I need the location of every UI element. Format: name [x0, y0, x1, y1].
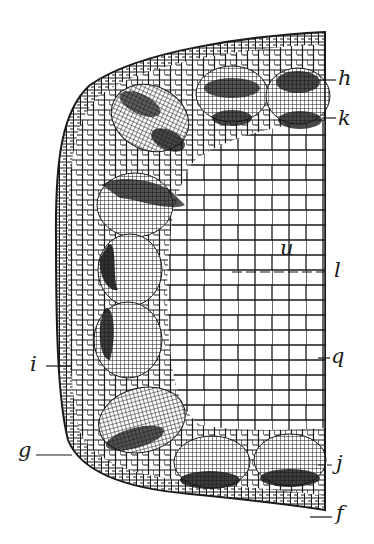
phloem-cap	[276, 71, 320, 93]
label-i: i	[30, 354, 37, 375]
label-f: f	[336, 503, 344, 524]
label-j: j	[336, 453, 343, 474]
label-h: h	[338, 68, 352, 89]
stem-cross-section-diagram	[0, 0, 374, 544]
phloem-cap	[260, 469, 320, 487]
label-l: l	[334, 260, 341, 281]
phloem-cap	[180, 471, 240, 489]
phloem-cap	[204, 78, 260, 98]
stem-section	[56, 32, 330, 510]
label-k: k	[338, 108, 351, 129]
label-u: u	[280, 238, 294, 259]
xylem-dark	[212, 110, 252, 126]
xylem-dark	[278, 111, 322, 129]
pith	[167, 120, 325, 430]
label-g: g	[18, 440, 31, 461]
label-q: q	[331, 346, 344, 367]
